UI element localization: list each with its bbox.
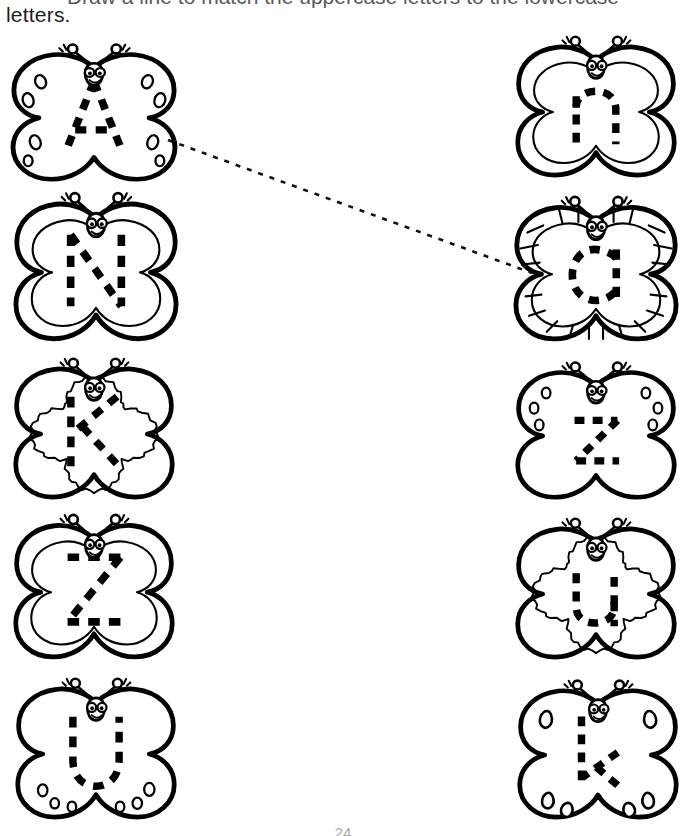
instruction-line-1: Draw a line to match the uppercase lette… bbox=[0, 0, 686, 8]
butterfly-uppercase-u[interactable]: U bbox=[10, 672, 182, 824]
instruction-line-2: letters. bbox=[6, 3, 71, 27]
butterfly-lowercase-z[interactable]: z bbox=[510, 356, 682, 504]
butterfly-uppercase-k[interactable]: K bbox=[8, 352, 180, 504]
page-number: 24 bbox=[0, 824, 686, 836]
butterfly-lowercase-u[interactable]: u bbox=[510, 512, 682, 664]
butterfly-uppercase-z[interactable]: Z bbox=[8, 508, 180, 664]
worksheet-page: Draw a line to match the uppercase lette… bbox=[0, 0, 686, 836]
butterfly-lowercase-a[interactable]: a bbox=[508, 190, 684, 346]
butterfly-lowercase-k[interactable]: k bbox=[512, 674, 684, 824]
butterfly-lowercase-n[interactable]: n bbox=[510, 30, 682, 182]
butterfly-uppercase-a[interactable]: A bbox=[5, 38, 183, 186]
match-line-A-to-a[interactable] bbox=[168, 140, 532, 273]
butterfly-uppercase-n[interactable]: N bbox=[8, 186, 184, 346]
